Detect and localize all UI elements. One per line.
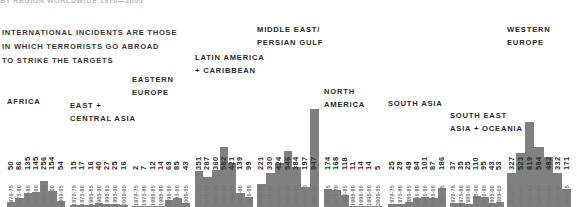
chart-page: BY REGION WORLDWIDE 1970—2005 INTERNATIO…: [0, 0, 577, 207]
period-label: 1990-95: [544, 173, 553, 206]
region-label-line: NORTH: [324, 86, 365, 99]
period-label: 1975-80: [203, 173, 211, 206]
period-label: 1975-80: [516, 173, 525, 206]
period-label: 1980-85: [87, 173, 95, 206]
period-labels: 1970-751975-801980-851985-901990-951995-…: [7, 173, 65, 207]
period-label: 2000-05: [562, 173, 571, 206]
region-label: AFRICA: [7, 96, 40, 109]
value-label: 54: [57, 140, 65, 170]
period-label: 1995-00: [48, 173, 56, 206]
region-label-line: AFRICA: [7, 96, 40, 109]
period-label: 1995-00: [173, 173, 181, 206]
period-label: 1980-85: [341, 173, 349, 206]
region-label-line: WESTERN: [507, 24, 551, 37]
region-group: EAST +CENTRAL ASIA151716402725161970-751…: [70, 0, 128, 207]
period-label: 1975-80: [266, 173, 275, 206]
region-label: NORTHAMERICA: [324, 86, 365, 111]
period-label: 1995-00: [301, 173, 310, 206]
period-label: 1995-00: [111, 173, 119, 206]
period-label: 1995-00: [553, 173, 562, 206]
period-label: 2000-05: [374, 173, 382, 206]
period-label: 1995-00: [365, 173, 373, 206]
period-label: 1995-00: [236, 173, 244, 206]
region-label: LATIN AMERICA+ CARIBBEAN: [195, 52, 264, 77]
value-label: 947: [310, 140, 319, 170]
value-label: 186: [438, 140, 446, 170]
value-label: 424: [275, 140, 284, 170]
region-label: WESTERNEUROPE: [507, 24, 551, 49]
period-label: 1985-90: [534, 173, 543, 206]
period-label: 1995-00: [429, 173, 437, 206]
region-group: EASTERNEUROPE2712146985431970-751975-801…: [132, 0, 190, 207]
period-label: 1975-80: [396, 173, 404, 206]
period-label: 2000-05: [496, 173, 504, 206]
region-group: SOUTH ASIA25294984101871861970-751975-80…: [388, 0, 446, 207]
value-labels: 271214698543: [132, 140, 190, 172]
region-group: WESTERNEUROPE3275238195844823321711970-7…: [507, 0, 571, 207]
region-group: LATIN AMERICA+ CARIBBEAN3512873605824211…: [195, 0, 253, 207]
period-label: 1975-80: [140, 173, 148, 206]
value-labels: 327523819584482332171: [507, 140, 571, 172]
region-group: NORTHAMERICA17416811811141451970-751975-…: [324, 0, 382, 207]
value-label: 16: [120, 140, 128, 170]
region-group: SOUTH EASTASIA + OCEANIA3735251109543531…: [450, 0, 504, 207]
period-label: 1980-85: [405, 173, 413, 206]
period-label: 2000-05: [245, 173, 253, 206]
period-label: 2000-05: [120, 173, 128, 206]
value-labels: 221330424546384197947: [257, 140, 319, 172]
period-label: 1980-85: [24, 173, 32, 206]
period-label: 1970-75: [257, 173, 266, 206]
value-label: 99: [245, 140, 253, 170]
value-labels: 508613514525615454: [7, 140, 65, 172]
period-labels: 1970-751975-801980-851985-901990-951995-…: [507, 173, 571, 207]
value-label: 43: [182, 140, 190, 170]
period-label: 2000-05: [310, 173, 319, 206]
value-label: 332: [553, 140, 562, 170]
period-label: 1980-85: [212, 173, 220, 206]
region-label-line: LATIN AMERICA: [195, 52, 264, 65]
period-label: 2000-05: [57, 173, 65, 206]
value-label: 584: [534, 140, 543, 170]
period-label: 1975-80: [78, 173, 86, 206]
value-labels: 1741681181114145: [324, 140, 382, 172]
period-label: 1970-75: [507, 173, 516, 206]
region-label-line: PERSIAN GULF: [257, 37, 323, 50]
value-labels: 373525110954353: [450, 140, 504, 172]
region-group: MIDDLE EAST/PERSIAN GULF2213304245463841…: [257, 0, 319, 207]
period-labels: 1970-751975-801980-851985-901990-951995-…: [257, 173, 319, 207]
period-label: 1980-85: [275, 173, 284, 206]
region-group: AFRICA5086135145256154541970-751975-8019…: [7, 0, 65, 207]
period-label: 1975-80: [332, 173, 340, 206]
period-label: 2000-05: [182, 173, 190, 206]
value-label: 482: [544, 140, 553, 170]
value-label: 5: [374, 140, 382, 170]
period-labels: 1970-751975-801980-851985-901990-951995-…: [388, 173, 446, 207]
value-labels: 35128736058242113999: [195, 140, 253, 172]
region-label: EASTERNEUROPE: [132, 74, 174, 99]
region-label: MIDDLE EAST/PERSIAN GULF: [257, 24, 323, 49]
period-label: 1975-80: [15, 173, 23, 206]
period-labels: 1970-751975-801980-851985-901990-951995-…: [195, 173, 253, 207]
value-label: 171: [562, 140, 571, 170]
region-label-line: + CARIBBEAN: [195, 65, 264, 78]
value-label: 53: [496, 140, 504, 170]
period-labels: 1970-751975-801980-851985-901990-951995-…: [70, 173, 128, 207]
period-labels: 1970-751975-801980-851985-901990-951995-…: [324, 173, 382, 207]
region-label-line: EUROPE: [132, 87, 174, 100]
period-label: 1980-85: [149, 173, 157, 206]
chart-groups: AFRICA5086135145256154541970-751975-8019…: [2, 0, 577, 207]
value-labels: 15171640272516: [70, 140, 128, 172]
period-labels: 1970-751975-801980-851985-901990-951995-…: [132, 173, 190, 207]
period-label: 2000-05: [438, 173, 446, 206]
region-label-line: MIDDLE EAST/: [257, 24, 323, 37]
value-labels: 2529498410187186: [388, 140, 446, 172]
region-label-line: EASTERN: [132, 74, 174, 87]
period-label: 1990-95: [292, 173, 301, 206]
region-label-line: EUROPE: [507, 37, 551, 50]
period-labels: 1970-751975-801980-851985-901990-951995-…: [450, 173, 504, 207]
